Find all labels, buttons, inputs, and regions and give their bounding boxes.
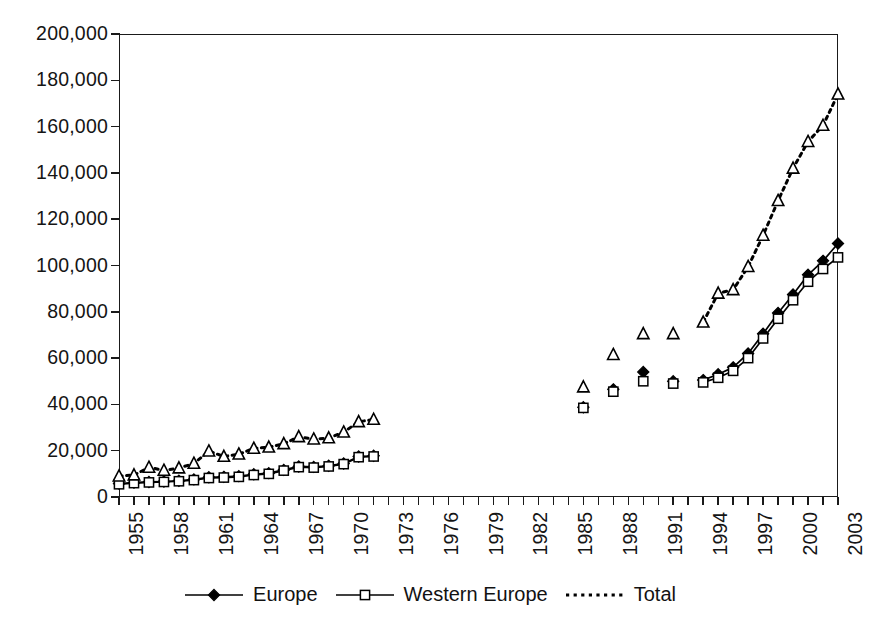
marker-open-triangle (772, 194, 783, 205)
marker-open-triangle (742, 260, 753, 271)
series-line (119, 419, 374, 476)
legend-item-europe[interactable]: Europe (183, 583, 334, 606)
marker-open-square (174, 477, 183, 486)
marker-open-square (833, 253, 842, 262)
marker-open-square (324, 462, 333, 471)
marker-filled-diamond (208, 589, 219, 600)
marker-open-triangle (143, 461, 154, 472)
marker-open-square (360, 590, 369, 599)
marker-open-triangle (308, 433, 319, 444)
marker-open-square (309, 463, 318, 472)
marker-open-square (264, 469, 273, 478)
marker-open-triangle (173, 462, 184, 473)
series-line (703, 257, 838, 382)
marker-open-square (369, 452, 378, 461)
marker-open-square (669, 379, 678, 388)
marker-open-square (729, 366, 738, 375)
marker-open-square (773, 314, 782, 323)
series-total (113, 88, 843, 481)
legend-item-western-europe[interactable]: Western Europe (334, 583, 564, 606)
marker-open-triangle (668, 328, 679, 339)
marker-open-square (159, 477, 168, 486)
marker-open-triangle (757, 229, 768, 240)
line-chart: 200,000180,000160,000140,000120,000100,0… (0, 0, 875, 625)
marker-open-square (639, 377, 648, 386)
marker-open-triangle (608, 348, 619, 359)
marker-open-square (714, 373, 723, 382)
chart-legend: EuropeWestern EuropeTotal (0, 583, 875, 606)
marker-open-triangle (832, 88, 843, 99)
marker-open-square (788, 296, 797, 305)
legend-label: Western Europe (404, 583, 548, 606)
marker-open-triangle (697, 316, 708, 327)
marker-open-square (744, 354, 753, 363)
series-layer (0, 0, 875, 625)
marker-open-square (609, 387, 618, 396)
marker-open-square (144, 478, 153, 487)
marker-open-square (354, 453, 363, 462)
marker-open-square (803, 277, 812, 286)
marker-open-square (189, 476, 198, 485)
legend-key-filled-diamond-icon (183, 586, 245, 604)
marker-open-square (579, 403, 588, 412)
marker-open-square (294, 463, 303, 472)
legend-key-open-square-icon (334, 586, 396, 604)
marker-open-square (818, 264, 827, 273)
marker-open-triangle (817, 119, 828, 130)
marker-open-triangle (638, 328, 649, 339)
marker-open-triangle (203, 445, 214, 456)
legend-label: Total (634, 583, 676, 606)
legend-label: Europe (253, 583, 318, 606)
marker-open-square (339, 460, 348, 469)
marker-open-triangle (158, 464, 169, 475)
marker-open-square (279, 466, 288, 475)
marker-open-triangle (323, 432, 334, 443)
marker-open-triangle (293, 431, 304, 442)
marker-open-square (234, 472, 243, 481)
marker-open-square (249, 470, 258, 479)
legend-item-total[interactable]: Total (564, 583, 692, 606)
legend-key-dotted-icon (564, 586, 626, 604)
marker-open-triangle (578, 381, 589, 392)
marker-open-square (699, 378, 708, 387)
marker-open-square (219, 473, 228, 482)
marker-open-square (204, 473, 213, 482)
marker-open-square (759, 334, 768, 343)
